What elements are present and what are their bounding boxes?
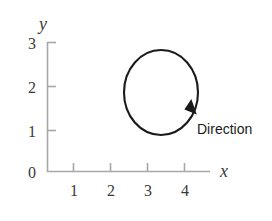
y-tick-label-0: 0 bbox=[22, 165, 42, 181]
direction-annotation-label: Direction bbox=[197, 122, 252, 136]
x-tick-label-3: 3 bbox=[138, 183, 158, 199]
y-tick-label-3: 3 bbox=[22, 36, 42, 52]
x-axis-label: x bbox=[220, 162, 228, 180]
y-axis-label: y bbox=[39, 15, 47, 33]
x-tick-label-4: 4 bbox=[175, 183, 195, 199]
y-tick-label-2: 2 bbox=[22, 80, 42, 96]
x-tick-label-2: 2 bbox=[101, 183, 121, 199]
x-tick-label-1: 1 bbox=[64, 183, 84, 199]
y-tick-label-1: 1 bbox=[22, 124, 42, 140]
